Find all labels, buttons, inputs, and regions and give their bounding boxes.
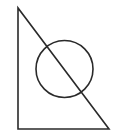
diagram-canvas [0,0,120,136]
right-triangle [18,8,109,129]
